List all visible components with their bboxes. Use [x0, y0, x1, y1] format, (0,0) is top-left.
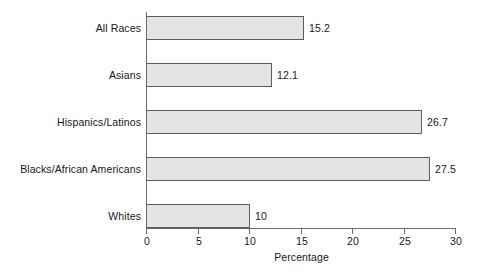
x-tick-label-25: 25: [399, 235, 411, 247]
bar-chart: All Races Asians Hispanics/Latinos Black…: [0, 0, 495, 272]
x-tick-label-15: 15: [296, 235, 308, 247]
x-tick-20: [352, 229, 353, 234]
x-tick-5: [198, 229, 199, 234]
y-axis-line: [146, 12, 147, 229]
bar-value-blacks-african-americans: 27.5: [435, 157, 456, 181]
x-axis-title: Percentage: [274, 251, 329, 263]
x-tick-label-10: 10: [244, 235, 256, 247]
x-tick-25: [404, 229, 405, 234]
bar-value-hispanics-latinos: 26.7: [427, 110, 448, 134]
x-tick-label-20: 20: [347, 235, 359, 247]
category-label-slot: Whites: [0, 204, 141, 228]
x-tick-0: [146, 229, 147, 234]
x-axis-title-container: Percentage: [0, 251, 495, 263]
category-label-slot: Hispanics/Latinos: [0, 110, 141, 134]
category-label-all-races: All Races: [96, 22, 141, 34]
x-tick-10: [249, 229, 250, 234]
bar-value-asians: 12.1: [277, 63, 298, 87]
bar-asians[interactable]: [146, 63, 272, 87]
bar-value-all-races: 15.2: [309, 16, 330, 40]
bar-whites[interactable]: [146, 204, 250, 228]
bar-blacks-african-americans[interactable]: [146, 157, 430, 181]
bar-all-races[interactable]: [146, 16, 304, 40]
category-label-asians: Asians: [109, 69, 141, 81]
x-tick-label-5: 5: [196, 235, 202, 247]
bar-value-whites: 10: [255, 204, 267, 228]
x-tick-30: [455, 229, 456, 234]
x-tick-label-30: 30: [450, 235, 462, 247]
category-label-slot: Asians: [0, 63, 141, 87]
x-tick-label-0: 0: [144, 235, 150, 247]
category-label-hispanics-latinos: Hispanics/Latinos: [57, 116, 141, 128]
x-tick-15: [301, 229, 302, 234]
category-label-blacks-african-americans: Blacks/African Americans: [20, 163, 141, 175]
bar-hispanics-latinos[interactable]: [146, 110, 422, 134]
category-label-whites: Whites: [108, 210, 141, 222]
category-label-slot: All Races: [0, 16, 141, 40]
category-label-slot: Blacks/African Americans: [0, 157, 141, 181]
